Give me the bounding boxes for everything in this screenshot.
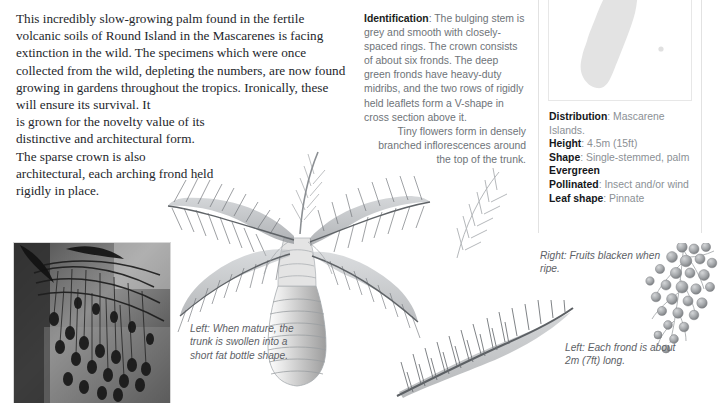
caption-trunk: Left: When mature, the trunk is swollen …: [190, 322, 310, 362]
fact-row-leaf-shape: Leaf shape: Pinnate: [549, 192, 701, 206]
identification-label: Identification: [364, 13, 429, 24]
mascarene-islands-marker: [658, 46, 663, 51]
madagascar-map-icon: [549, 0, 691, 100]
encyclopedia-page: This incredibly slow-growing palm found …: [0, 0, 720, 403]
distribution-map-figure: [548, 0, 692, 101]
fact-label-distribution: Distribution: [549, 111, 607, 122]
fact-label-shape: Shape: [549, 152, 580, 163]
fact-label-evergreen: Evergreen: [549, 165, 600, 176]
palm-fruiting-branches-photograph: [14, 243, 170, 403]
fact-row-height: Height: 4.5m (15ft): [549, 137, 701, 151]
fact-row-evergreen: Evergreen: [549, 164, 701, 178]
fact-row-distribution: Distribution: Mascarene Islands.: [549, 110, 701, 137]
fact-label-height: Height: [549, 138, 581, 149]
frond-drawing: [395, 300, 575, 403]
caption-fruits: Right: Fruits blacken when ripe.: [540, 249, 670, 276]
fact-value-leaf-shape: Pinnate: [609, 193, 644, 204]
fact-value-shape: Single-stemmed, palm: [586, 152, 689, 163]
fact-list: Distribution: Mascarene Islands. Height:…: [549, 110, 701, 205]
fact-value-pollinated: Insect and/or wind: [604, 179, 688, 190]
fact-row-shape: Shape: Single-stemmed, palm: [549, 151, 701, 165]
photograph-content: [14, 243, 170, 403]
fact-value-height: 4.5m (15ft): [587, 138, 637, 149]
single-frond-illustration: [395, 300, 575, 403]
identification-text: The bulging stem is grey and smooth with…: [364, 13, 524, 123]
article-intro-narrow-paragraph: is grown for the novelty value of its di…: [16, 113, 216, 199]
article-body: This incredibly slow-growing palm found …: [16, 10, 351, 199]
caption-frond: Left: Each frond is about 2m (7ft) long.: [565, 341, 685, 368]
fact-row-pollinated: Pollinated: Insect and/or wind: [549, 178, 701, 192]
identification-block: Identification: The bulging stem is grey…: [364, 12, 526, 167]
frond-leaflets: [401, 300, 565, 392]
article-intro-paragraph: This incredibly slow-growing palm found …: [16, 10, 351, 113]
fact-label-pollinated: Pollinated: [549, 179, 599, 190]
fact-label-leaf-shape: Leaf shape: [549, 193, 603, 204]
identification-text-taper: Tiny flowers form in densely branched in…: [364, 125, 526, 167]
